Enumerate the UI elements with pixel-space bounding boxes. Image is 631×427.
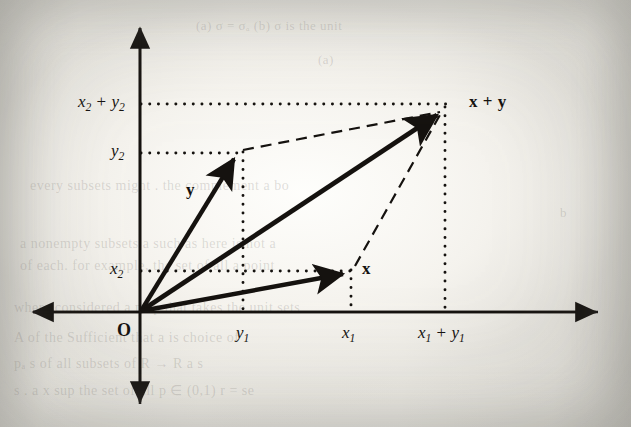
vectors-group: [141, 115, 437, 311]
label-x1-plus-y1-op: +: [431, 323, 451, 342]
label-vector-x-plus-y: x + y: [469, 92, 506, 112]
label-sum-first: x: [469, 92, 478, 111]
label-sum-op: +: [478, 92, 498, 111]
label-x2-sub: 2: [118, 268, 124, 281]
label-vector-y: y: [186, 180, 195, 200]
label-x2-plus-y2-base: x: [78, 92, 86, 111]
label-x2-plus-y2-base2: y: [111, 92, 119, 111]
label-x2-base: x: [110, 259, 118, 278]
label-x2: x2: [110, 259, 123, 281]
label-x1-plus-y1-base2: y: [451, 323, 459, 342]
label-sum-second: y: [498, 92, 507, 111]
label-x1-sub: 1: [350, 332, 356, 345]
label-x2-plus-y2: x2 + y2: [78, 92, 125, 114]
dashed-parallelogram-edges: [243, 112, 441, 266]
vector-addition-diagram: [0, 0, 631, 427]
label-x1-plus-y1-sub2: 1: [459, 332, 465, 345]
label-y2-base: y: [111, 141, 119, 160]
label-y2: y2: [111, 141, 124, 163]
label-x2-plus-y2-op: +: [91, 92, 111, 111]
label-vector-x: x: [362, 259, 371, 279]
axes-group: [33, 28, 598, 404]
label-x1-plus-y1: x1 + y1: [418, 323, 465, 345]
label-y1-base: y: [236, 323, 244, 342]
label-x2-plus-y2-sub2: 2: [119, 101, 125, 114]
label-y2-sub: 2: [119, 150, 125, 163]
dashed-edge-x-to-sum: [355, 113, 441, 266]
scanned-figure-page: (a) σ = σₐ (b) σ is the unit(a)every sub…: [0, 0, 631, 427]
label-y1: y1: [236, 323, 249, 345]
label-y1-sub: 1: [244, 332, 250, 345]
label-x1: x1: [342, 323, 355, 345]
label-x1-plus-y1-base: x: [418, 323, 426, 342]
label-x1-base: x: [342, 323, 350, 342]
vector-x-plus-y: [141, 115, 437, 311]
label-origin: O: [117, 320, 131, 341]
